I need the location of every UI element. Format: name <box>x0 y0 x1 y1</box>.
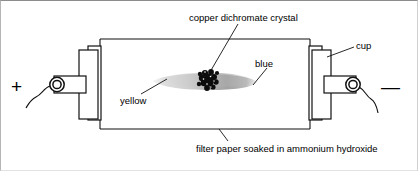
figure-canvas: copper dichromate crystal cup blue yello… <box>0 0 418 171</box>
left-terminal-ring <box>50 77 64 91</box>
negative-terminal-sign: — <box>381 76 400 98</box>
label-cup: cup <box>356 40 371 51</box>
right-lead-wire <box>359 87 378 113</box>
right-terminal-ring <box>346 77 360 91</box>
leader-line-blue <box>253 68 267 85</box>
label-blue: blue <box>255 58 273 69</box>
label-copper-dichromate-crystal: copper dichromate crystal <box>189 12 298 23</box>
leader-line-crystal <box>210 24 238 72</box>
left-lead-wire <box>26 86 50 108</box>
positive-terminal-sign: + <box>11 76 22 98</box>
label-filter-paper: filter paper soaked in ammonium hydroxid… <box>196 143 378 154</box>
label-yellow: yellow <box>120 95 146 106</box>
leader-line-filter-paper <box>219 129 228 141</box>
